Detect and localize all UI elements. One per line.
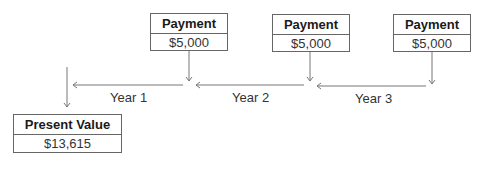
present-value-title: Present Value	[14, 115, 121, 135]
present-value-amount: $13,615	[14, 135, 121, 152]
year-2-label: Year 2	[232, 90, 269, 105]
payment-title: Payment	[151, 14, 227, 34]
payment-amount: $5,000	[394, 35, 470, 52]
payment-box-2: Payment $5,000	[272, 14, 350, 52]
payment-amount: $5,000	[151, 34, 227, 51]
payment-box-3: Payment $5,000	[393, 14, 471, 52]
payment-title: Payment	[394, 15, 470, 35]
payment-amount: $5,000	[273, 35, 349, 52]
payment-box-1: Payment $5,000	[150, 13, 228, 51]
payment-title: Payment	[273, 15, 349, 35]
year-1-label: Year 1	[110, 90, 147, 105]
year-3-label: Year 3	[355, 91, 392, 106]
present-value-box: Present Value $13,615	[13, 114, 122, 153]
